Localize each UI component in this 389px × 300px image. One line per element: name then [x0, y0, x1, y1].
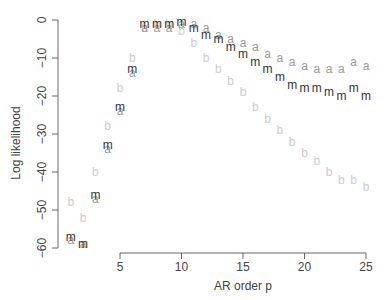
data-point-a: a: [252, 40, 259, 54]
data-point-b: b: [80, 211, 87, 225]
y-tick-label: −30: [35, 123, 49, 144]
y-tick-label: −20: [35, 85, 49, 106]
data-point-b: b: [117, 81, 124, 95]
data-point-m: m: [177, 15, 187, 29]
data-point-b: b: [252, 100, 259, 114]
data-point-b: b: [277, 123, 284, 137]
y-tick-label: −10: [35, 47, 49, 68]
data-point-a: a: [277, 51, 284, 65]
data-point-b: b: [363, 180, 370, 194]
data-point-a: a: [363, 59, 370, 73]
data-point-b: b: [338, 173, 345, 187]
data-point-m: m: [127, 62, 137, 76]
data-point-m: m: [115, 100, 125, 114]
data-point-b: b: [92, 165, 99, 179]
y-tick-label: 0: [35, 16, 49, 23]
data-point-b: b: [350, 173, 357, 187]
data-point-m: m: [103, 138, 113, 152]
x-tick-label: 10: [175, 260, 189, 274]
data-point-m: m: [324, 85, 334, 99]
data-point-m: m: [226, 40, 236, 54]
data-point-a: a: [264, 47, 271, 61]
data-point-m: m: [287, 78, 297, 92]
data-point-b: b: [313, 154, 320, 168]
data-point-b: b: [104, 119, 111, 133]
data-point-b: b: [264, 112, 271, 126]
y-tick-label: −50: [35, 199, 49, 220]
data-point-m: m: [300, 81, 310, 95]
data-point-m: m: [164, 17, 174, 31]
data-point-b: b: [190, 36, 197, 50]
data-point-m: m: [66, 230, 76, 244]
data-point-m: m: [140, 17, 150, 31]
data-points: bbbbbbbbbbbbbbbbbbbbbbbbbaaaaaaaaaaaaaaa…: [66, 15, 371, 251]
data-point-m: m: [90, 188, 100, 202]
data-point-m: m: [238, 47, 248, 61]
x-tick-label: 5: [117, 260, 124, 274]
data-point-m: m: [78, 237, 88, 251]
data-point-a: a: [313, 62, 320, 76]
log-likelihood-chart: 0−10−20−30−40−50−60510152025 bbbbbbbbbbb…: [0, 0, 389, 300]
data-point-b: b: [326, 165, 333, 179]
data-point-b: b: [67, 195, 74, 209]
data-point-b: b: [289, 135, 296, 149]
data-point-b: b: [215, 62, 222, 76]
x-tick-label: 20: [298, 260, 312, 274]
data-point-m: m: [361, 89, 371, 103]
data-point-b: b: [203, 51, 210, 65]
y-tick-label: −40: [35, 161, 49, 182]
data-point-m: m: [201, 28, 211, 42]
data-point-m: m: [312, 81, 322, 95]
y-axis-label: Log likelihood: [9, 106, 23, 179]
data-point-a: a: [326, 62, 333, 76]
data-point-b: b: [240, 85, 247, 99]
data-point-m: m: [189, 21, 199, 35]
x-tick-label: 15: [236, 260, 250, 274]
x-tick-label: 25: [359, 260, 373, 274]
data-point-m: m: [152, 17, 162, 31]
data-point-m: m: [336, 89, 346, 103]
data-point-m: m: [275, 70, 285, 84]
data-point-m: m: [213, 32, 223, 46]
y-tick-label: −60: [35, 237, 49, 258]
data-point-m: m: [263, 62, 273, 76]
data-point-b: b: [227, 74, 234, 88]
data-point-m: m: [349, 81, 359, 95]
data-point-m: m: [250, 55, 260, 69]
x-axis-label: AR order p: [214, 279, 272, 293]
data-point-b: b: [301, 146, 308, 160]
data-point-a: a: [338, 62, 345, 76]
data-point-a: a: [350, 55, 357, 69]
data-point-a: a: [301, 59, 308, 73]
data-point-a: a: [289, 55, 296, 69]
